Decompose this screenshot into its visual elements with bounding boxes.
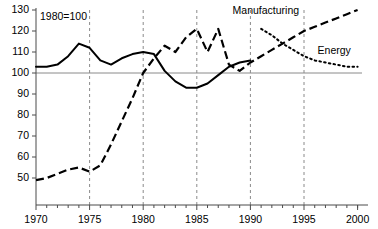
y-tick-label-110: 110 bbox=[12, 45, 29, 57]
y-tick-label-80: 80 bbox=[17, 108, 29, 120]
x-axis-ticks: 1970197519801985199019952000 bbox=[24, 205, 369, 225]
index-chart: 5060708090100110120130 19701975198019851… bbox=[0, 0, 378, 229]
chart-canvas: 5060708090100110120130 19701975198019851… bbox=[0, 0, 378, 229]
manufacturing-label: Manufacturing bbox=[233, 4, 300, 16]
y-tick-label-100: 100 bbox=[11, 66, 29, 78]
y-tick-label-70: 70 bbox=[17, 129, 29, 141]
y-tick-label-130: 130 bbox=[11, 3, 29, 15]
y-tick-label-50: 50 bbox=[17, 171, 29, 183]
gridlines bbox=[90, 10, 304, 205]
y-tick-label-90: 90 bbox=[17, 87, 29, 99]
y-tick-label-120: 120 bbox=[11, 24, 29, 36]
energy-label: Energy bbox=[318, 44, 352, 56]
x-tick-label-2000: 2000 bbox=[346, 213, 370, 225]
base-year-note: 1980=100 bbox=[40, 10, 87, 22]
y-tick-label-60: 60 bbox=[17, 150, 29, 162]
y-axis-ticks: 5060708090100110120130 bbox=[11, 3, 36, 183]
x-tick-label-1970: 1970 bbox=[24, 213, 48, 225]
x-tick-label-1980: 1980 bbox=[132, 213, 156, 225]
x-tick-label-1990: 1990 bbox=[239, 213, 263, 225]
x-tick-label-1985: 1985 bbox=[185, 213, 209, 225]
x-tick-label-1975: 1975 bbox=[78, 213, 102, 225]
x-tick-label-1995: 1995 bbox=[292, 213, 316, 225]
